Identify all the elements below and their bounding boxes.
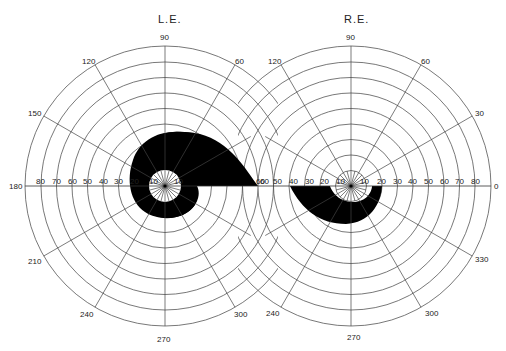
right-horizontal-scale: 6050403020101020304050607080 — [260, 177, 480, 186]
scale-label: 70 — [52, 177, 61, 186]
le-label-120: 120 — [82, 57, 96, 66]
re-label-300: 300 — [425, 309, 439, 318]
re-label-0: 0 — [494, 182, 499, 191]
scale-label: 30 — [114, 177, 123, 186]
right-eye-scotoma — [290, 186, 382, 224]
scale-label: 70 — [455, 177, 464, 186]
scale-label: 50 — [83, 177, 92, 186]
le-label-90: 90 — [160, 33, 169, 42]
scale-label: 10 — [336, 177, 345, 186]
left-eye-title: L.E. — [158, 13, 182, 25]
le-label-210: 210 — [28, 257, 42, 266]
re-label-60: 60 — [421, 57, 430, 66]
scale-label: 40 — [289, 177, 298, 186]
right-eye-title: R.E. — [344, 13, 369, 25]
scale-label: 10 — [174, 177, 183, 186]
scale-label: 50 — [424, 177, 433, 186]
scale-label: 20 — [377, 177, 386, 186]
scale-label: 40 — [99, 177, 108, 186]
left-fixation-point — [163, 184, 166, 187]
re-label-30: 30 — [475, 109, 484, 118]
le-label-150: 150 — [28, 109, 42, 118]
right-fixation-point — [349, 184, 352, 187]
scale-label: 30 — [305, 177, 314, 186]
le-label-240: 240 — [80, 310, 94, 319]
le-label-300: 300 — [234, 310, 248, 319]
scale-label: 60 — [68, 177, 77, 186]
scale-label: 20 — [320, 177, 329, 186]
scale-label: 40 — [408, 177, 417, 186]
re-label-90: 90 — [346, 33, 355, 42]
scale-label: 80 — [471, 177, 480, 186]
scale-label: 60 — [440, 177, 449, 186]
re-label-120: 120 — [268, 57, 282, 66]
scale-label: 60 — [260, 177, 269, 186]
le-label-180: 180 — [9, 182, 23, 191]
scale-label: 80 — [36, 177, 45, 186]
re-label-240: 240 — [266, 309, 280, 318]
visual-field-chart: L.E. R.E. 90 120 60 150 180 210 240 270 … — [0, 0, 506, 351]
le-label-270: 270 — [157, 335, 171, 344]
re-label-330: 330 — [475, 255, 489, 264]
scale-label: 20 — [130, 177, 139, 186]
re-label-270: 270 — [347, 333, 361, 342]
scale-label: 50 — [273, 177, 282, 186]
le-label-60: 60 — [235, 57, 244, 66]
scale-label: 10 — [360, 177, 369, 186]
scale-label: 10 — [149, 177, 158, 186]
scale-label: 30 — [393, 177, 402, 186]
